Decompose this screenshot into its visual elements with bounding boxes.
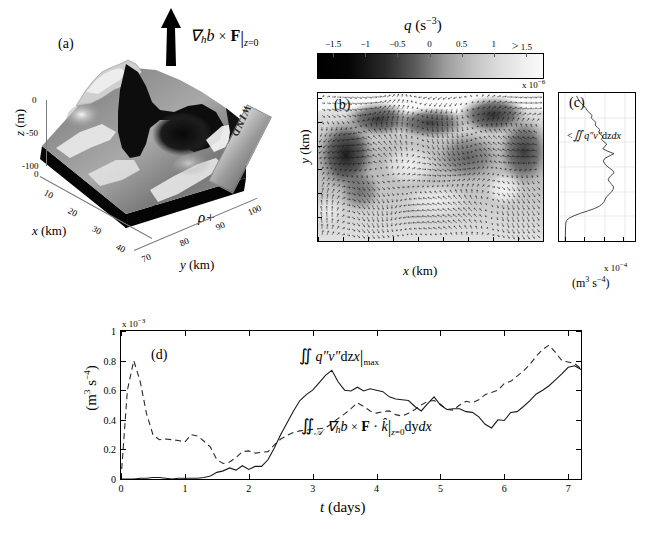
panel-b-ytickmark-0 (318, 241, 322, 242)
panel-b-xtickmark-1 (343, 237, 344, 241)
panel-b-xtickmark-7 (493, 237, 494, 241)
panel-d-ytickmark-5-1 (576, 331, 581, 332)
panel-a-3d-surface: WIND ρ− ρ+ (30, 28, 262, 256)
panel-d-ytick-0: 0 (111, 474, 116, 485)
colorbar-tick-5: 1 (492, 40, 497, 49)
panel-c-xtickmark-1 (584, 237, 585, 241)
panel-a: (a) ∇hb × F|z=0 (0, 0, 300, 282)
panel-b-xlabel: x (km) (403, 264, 437, 277)
panel-d-exponent: x 10−3 (122, 318, 145, 329)
panel-c-units: (m3 s−4) (572, 276, 610, 289)
panel-d-xtick-6: 6 (502, 483, 507, 494)
panel-b-xtickmark-8 (518, 237, 519, 241)
panel-c-xtickmark-2 (604, 237, 605, 241)
panel-a-z-axis (46, 100, 47, 166)
panel-d-ytick-2: 0.4 (104, 414, 117, 425)
colorbar-tick-4: 0.5 (456, 40, 467, 49)
panel-d-ytick-1: 0.2 (104, 444, 117, 455)
panel-d-ytickmark-0-0 (121, 479, 126, 480)
panel-d-exponent-power: −3 (138, 317, 145, 325)
panel-d-xtick-1: 1 (182, 483, 187, 494)
panel-d-xtickmark-4-1 (377, 331, 378, 336)
panel-c-xtickmark-3 (623, 237, 624, 241)
panel-d-ytick-5: 1 (111, 326, 116, 337)
colorbar-tick-3: 0 (427, 40, 432, 49)
panel-d-xtickmark-3-1 (313, 331, 314, 336)
panel-a-ylabel: y (km) (180, 258, 214, 271)
panel-c: (c) <∬ q″v″dzdx 0246 (558, 92, 636, 242)
panel-d-xlabel: t (days) (320, 500, 365, 515)
panel-b-xtickmark-4 (418, 237, 419, 241)
panel-d-xtickmark-3-0 (313, 474, 314, 479)
panel-d-xtick-0: 0 (119, 483, 124, 494)
colorbar-tick-6: > 1.5 (512, 40, 532, 52)
panel-d-ytickmark-1-0 (121, 449, 126, 450)
panel-b: 707580859095100 0510152025303540 (b) (317, 92, 544, 242)
panel-d-xtick-4: 4 (374, 483, 379, 494)
panel-d-annotation-solid: ∬ q″v″dzx|max (299, 347, 379, 367)
panel-c-xtickmark-0 (565, 237, 566, 241)
panel-d-id: (d) (151, 347, 167, 363)
panel-d-ytickmark-3-0 (121, 390, 126, 391)
colorbar-tickmark-2 (397, 53, 398, 57)
panel-b-xtickmark-0 (318, 237, 319, 241)
panel-d-xtick-5: 5 (438, 483, 443, 494)
panel-d-xtickmark-0-0 (121, 474, 122, 479)
colorbar-tickmark-5 (494, 53, 495, 57)
panel-c-curve-label: <∬ q″v″dzdx (567, 129, 621, 141)
panel-a-ztick-0: 0 (32, 96, 37, 105)
panel-c-exponent: x 10−4 (604, 262, 627, 273)
colorbar-tick-1: −1 (360, 40, 370, 49)
panel-d-xtickmark-2-1 (249, 331, 250, 336)
panel-a-xlabel: x (km) (32, 224, 66, 237)
panel-a-zlabel: z (m) (6, 116, 33, 129)
panel-b-id: (b) (334, 97, 350, 113)
panel-d-xtickmark-6-1 (504, 331, 505, 336)
colorbar-tickmark-1 (365, 53, 366, 57)
panel-d-ytickmark-2-1 (576, 420, 581, 421)
colorbar-tick-0: −1.5 (325, 40, 341, 49)
colorbar (317, 53, 544, 79)
panel-c-id: (c) (569, 95, 585, 111)
panel-d-ytickmark-2-0 (121, 420, 126, 421)
panel-a-ztick-1: -50 (26, 129, 38, 138)
panel-d-xtickmark-2-0 (249, 474, 250, 479)
colorbar-exponent: x 10−6 (522, 79, 545, 90)
panel-d-ytickmark-3-1 (576, 390, 581, 391)
colorbar-tickmark-3 (430, 53, 431, 57)
colorbar-exponent-base: x 10 (522, 80, 538, 90)
panel-d-xtickmark-5-1 (440, 331, 441, 336)
panel-d-ytick-4: 0.8 (104, 355, 117, 366)
colorbar-tickmark-6 (526, 53, 527, 57)
colorbar-exponent-power: −6 (538, 78, 545, 86)
panel-d-xtickmark-4-0 (377, 474, 378, 479)
panel-c-profile-curve (565, 96, 614, 241)
panel-d-ytickmark-4-0 (121, 361, 126, 362)
panel-c-exponent-power: −4 (620, 261, 627, 269)
colorbar-title: q (s−3) (404, 16, 442, 33)
panel-c-exponent-base: x 10 (604, 263, 620, 273)
panel-b-ytickmark-6 (318, 98, 322, 99)
panel-d-ytickmark-0-1 (576, 479, 581, 480)
panel-d-xtickmark-1-1 (185, 331, 186, 336)
panel-b-ytickmark-2 (318, 193, 322, 194)
panel-b-xtickmark-6 (468, 237, 469, 241)
panel-b-ylabel: y (km) (287, 140, 321, 153)
density-low-label: ρ− (152, 200, 169, 215)
colorbar-tickmark-0 (333, 53, 334, 57)
panel-b-xtickmark-3 (393, 237, 394, 241)
panel-a-xtick-0: 0 (34, 170, 39, 179)
panel-d-xtickmark-7-1 (568, 331, 569, 336)
panel-b-ytickmark-1 (318, 217, 322, 218)
panel-d-xtickmark-5-0 (440, 474, 441, 479)
panel-d-xtickmark-1-0 (185, 474, 186, 479)
panel-d-xtick-2: 2 (246, 483, 251, 494)
panel-d-ytickmark-4-1 (576, 361, 581, 362)
panel-b-xtickmark-5 (443, 237, 444, 241)
panel-d-exponent-base: x 10 (122, 319, 138, 329)
colorbar-tickmark-4 (462, 53, 463, 57)
panel-d-ylabel: (m3 s−4) (68, 380, 113, 396)
figure-root: (a) ∇hb × F|z=0 (0, 0, 654, 534)
colorbar-tick-2: −0.5 (389, 40, 405, 49)
panel-d-annotation-dashed: ∬𝒜 ∇hb × F · k̂|z=0dydx (301, 417, 432, 437)
